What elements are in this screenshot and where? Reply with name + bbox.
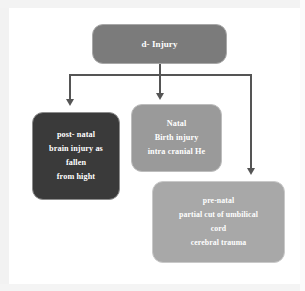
arrowhead-pre-natal-icon bbox=[247, 168, 255, 175]
node-natal-line-1: Natal bbox=[167, 119, 187, 129]
node-pre-natal-line-3: cord bbox=[211, 224, 227, 233]
node-post-natal-line-2: brain injury as bbox=[49, 144, 103, 154]
frame-edge-left bbox=[0, 0, 9, 291]
node-pre-natal-line-1: pre-natal bbox=[203, 196, 235, 205]
connector-to-pre-natal bbox=[250, 74, 252, 169]
node-natal[interactable]: Natal Birth injury intra cranial He bbox=[131, 104, 222, 172]
arrowhead-natal-icon bbox=[156, 93, 164, 100]
node-root-injury[interactable]: d- Injury bbox=[92, 24, 227, 64]
connector-to-natal bbox=[159, 74, 161, 94]
node-pre-natal-line-4: cerebral trauma bbox=[191, 238, 247, 247]
node-post-natal-line-4: from hight bbox=[57, 172, 95, 182]
node-root-label: d- Injury bbox=[141, 39, 177, 50]
node-pre-natal[interactable]: pre-natal partial cut of umbilical cord … bbox=[152, 181, 285, 263]
arrowhead-post-natal-icon bbox=[66, 99, 74, 106]
frame-edge-bottom bbox=[0, 284, 305, 291]
node-pre-natal-line-2: partial cut of umbilical bbox=[179, 210, 258, 219]
diagram-canvas: d- Injury post- natal brain injury as fa… bbox=[0, 0, 305, 291]
node-natal-line-3: intra cranial He bbox=[148, 147, 206, 157]
frame-edge-top bbox=[0, 0, 305, 8]
node-post-natal-line-1: post- natal bbox=[57, 130, 95, 140]
connector-to-post-natal bbox=[69, 74, 71, 100]
node-post-natal-line-3: fallen bbox=[66, 158, 86, 168]
frame-edge-right bbox=[300, 0, 305, 291]
node-natal-line-2: Birth injury bbox=[155, 133, 199, 143]
node-post-natal[interactable]: post- natal brain injury as fallen from … bbox=[32, 112, 120, 200]
